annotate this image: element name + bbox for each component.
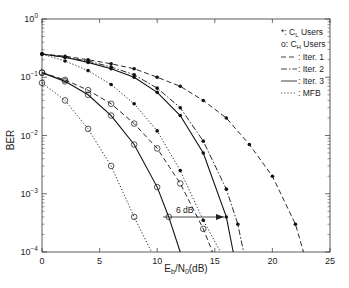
data-point (131, 214, 137, 220)
data-point (85, 126, 91, 132)
data-point (155, 75, 159, 79)
legend: *: CL Userso: CH Users: Iter. 1: Iter. 2… (281, 27, 326, 98)
data-point (132, 67, 136, 71)
data-point (155, 91, 159, 95)
series-line (42, 54, 244, 252)
annotation-6db: 6 dB (163, 205, 224, 220)
data-point (178, 169, 182, 173)
x-tick-label: 10 (152, 256, 162, 266)
x-tick-label: 0 (39, 256, 44, 266)
data-point (201, 151, 205, 155)
data-point (225, 116, 229, 120)
y-axis-label: BER (5, 130, 16, 151)
data-point (178, 114, 182, 118)
data-point (177, 181, 183, 187)
data-point (155, 86, 159, 90)
data-point (201, 99, 205, 103)
y-tick-label: 10−2 (21, 129, 39, 141)
data-point (63, 59, 67, 63)
data-point (63, 56, 67, 60)
series-line (42, 54, 304, 252)
legend-entry: : MFB (298, 88, 321, 98)
legend-entry: : Iter. 2 (298, 64, 324, 74)
data-point (109, 67, 113, 71)
data-point (86, 69, 90, 73)
x-tick-label: 5 (97, 256, 102, 266)
y-tick-label: 10−1 (21, 70, 39, 82)
y-tick-label: 10−3 (21, 187, 39, 199)
x-tick-label: 15 (210, 256, 220, 266)
data-point (132, 75, 136, 79)
data-point (201, 219, 205, 223)
data-point (225, 187, 229, 191)
data-point (109, 62, 113, 66)
data-point (294, 222, 298, 226)
y-tick-label: 100 (24, 12, 38, 24)
y-tick-label: 10−4 (21, 245, 39, 257)
data-point (40, 52, 44, 56)
legend-entry: *: CL Users (281, 27, 323, 38)
svg-text:6 dB: 6 dB (176, 205, 194, 215)
x-tick-label: 25 (325, 256, 335, 266)
data-point (236, 222, 240, 226)
data-point (248, 143, 252, 147)
legend-entry: : Iter. 3 (298, 76, 324, 86)
series-line (42, 83, 151, 252)
data-point (201, 139, 205, 143)
data-point (86, 61, 90, 65)
data-point (155, 129, 159, 133)
data-point (132, 102, 136, 106)
data-point (178, 84, 182, 88)
data-point (178, 106, 182, 110)
data-point (271, 174, 275, 178)
legend-entry: o: CH Users (281, 39, 326, 50)
data-point (109, 83, 113, 87)
data-point (225, 215, 229, 219)
x-tick-label: 20 (267, 256, 277, 266)
legend-entry: : Iter. 1 (298, 52, 324, 62)
x-axis-label: Eb/N0(dB) (164, 263, 207, 275)
ber-chart: 051015202510010−110−210−310−4 Eb/N0(dB) … (0, 0, 349, 288)
